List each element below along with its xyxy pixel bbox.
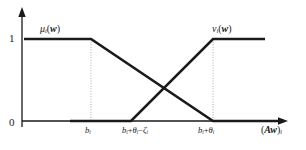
fuzzy-membership-chart: 1 0 μi(w) νi(w) bi bi+θi−ζi bi+θi (Aw)i: [0, 0, 306, 150]
origin-label-zero: 0: [9, 117, 15, 128]
b-subscript: i: [89, 129, 90, 135]
x-tick-label-b-i: bi: [85, 126, 91, 135]
y-axis-arrowhead: [18, 7, 25, 17]
mu-paren-close: ): [57, 23, 60, 34]
mu-arg-w: w: [50, 23, 57, 34]
theta-subscript-2: i: [213, 129, 214, 135]
x-tick-label-b-i-plus-theta-i-minus-zeta-i: bi+θi−ζi: [122, 126, 148, 135]
axis-subscript: i: [280, 128, 282, 135]
nu-paren-close: ): [228, 23, 231, 34]
curve-mu-i: [24, 39, 281, 121]
x-axis-label: (Aw)i: [261, 125, 282, 136]
x-tick-label-b-i-plus-theta-i: bi+θi: [198, 126, 214, 135]
curve-label-nu-i: νi(w): [212, 24, 232, 35]
y-tick-label-one: 1: [9, 33, 15, 44]
curve-label-mu-i: μi(w): [40, 24, 60, 35]
zeta-subscript: i: [146, 129, 147, 135]
curve-nu-i: [70, 39, 265, 121]
axis-w-variable: w: [270, 124, 277, 135]
